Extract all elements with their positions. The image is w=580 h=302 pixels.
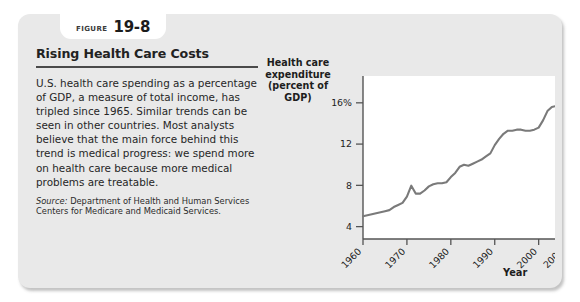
y-tick-label: 4: [346, 221, 352, 232]
figure-caption-body: U.S. health care spending as a percentag…: [36, 76, 258, 189]
figure-badge-number: 19-8: [113, 18, 150, 36]
figure-card: Figure 19-8 Rising Health Care Costs U.S…: [18, 14, 562, 288]
line-chart: 481216% 196019701980199020002006: [255, 46, 555, 278]
page-title: Rising Health Care Costs: [36, 46, 261, 61]
x-tick-label: 1970: [383, 246, 408, 271]
y-tick-label: 8: [346, 180, 352, 191]
x-tick-label: 1980: [427, 246, 452, 271]
y-tick-label: 16%: [331, 97, 352, 108]
figure-badge-word: Figure: [76, 21, 107, 33]
title-divider: [36, 66, 258, 68]
x-axis-title: Year: [503, 267, 527, 278]
x-tick-label: 2006: [541, 246, 555, 271]
x-tick-label: 1960: [339, 246, 364, 271]
y-tick-label: 12: [340, 138, 352, 149]
plot-background: [363, 76, 555, 239]
figure-source-label: Source:: [36, 196, 67, 206]
x-axis-ticks: 196019701980199020002006: [339, 239, 555, 270]
figure-text-column: Rising Health Care Costs U.S. health car…: [36, 46, 261, 217]
x-tick-label: 1990: [471, 246, 496, 271]
y-axis-ticks: 481216%: [331, 97, 363, 232]
figure-source: Source: Department of Health and Human S…: [36, 196, 258, 217]
figure-source-text: Department of Health and Human Services …: [36, 196, 249, 217]
chart-container: Health care expenditure (percent of GDP)…: [255, 46, 555, 278]
figure-badge: Figure 19-8: [60, 14, 166, 39]
